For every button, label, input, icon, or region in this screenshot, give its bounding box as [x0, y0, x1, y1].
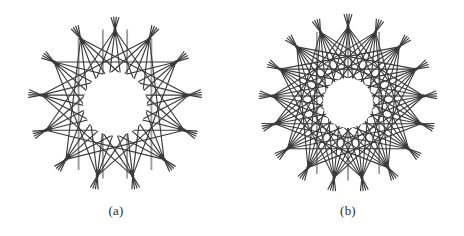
star-polygon-diagram-b: [232, 0, 464, 204]
figure-panel: (a) (b): [0, 0, 464, 236]
subfigure-caption-a: (a): [0, 203, 232, 219]
star-polygon-canvas-b: [232, 0, 464, 204]
subfigure-caption-b: (b): [232, 203, 464, 219]
subfigure-b: (b): [232, 0, 464, 236]
subfigure-a: (a): [0, 0, 232, 236]
star-polygon-diagram-a: [0, 0, 232, 204]
star-polygon-canvas-a: [0, 0, 232, 204]
